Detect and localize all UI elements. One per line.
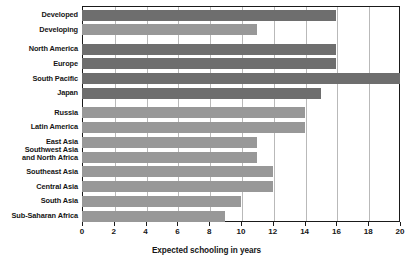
x-tick-label: 12 bbox=[268, 227, 277, 236]
x-axis-title: Expected schooling in years bbox=[0, 246, 413, 255]
bar bbox=[82, 166, 273, 177]
x-tick bbox=[336, 222, 337, 226]
x-tick bbox=[368, 222, 369, 226]
x-tick bbox=[82, 222, 83, 226]
bar-row bbox=[82, 122, 400, 133]
category-label: Russia bbox=[0, 109, 78, 117]
bar bbox=[82, 181, 273, 192]
category-axis-labels: DevelopedDevelopingNorth AmericaEuropeSo… bbox=[0, 6, 78, 222]
category-label: Sub-Saharan Africa bbox=[0, 212, 78, 220]
bar-row bbox=[82, 211, 400, 222]
x-tick bbox=[146, 222, 147, 226]
bar-chart: DevelopedDevelopingNorth AmericaEuropeSo… bbox=[0, 0, 413, 269]
bar bbox=[82, 88, 321, 99]
bar-row bbox=[82, 88, 400, 99]
x-tick-label: 2 bbox=[112, 227, 116, 236]
category-label: Developed bbox=[0, 11, 78, 19]
bar-row bbox=[82, 107, 400, 118]
x-tick bbox=[400, 222, 401, 226]
bar bbox=[82, 24, 257, 35]
bar bbox=[82, 152, 257, 163]
x-tick-label: 18 bbox=[364, 227, 373, 236]
x-tick bbox=[209, 222, 210, 226]
bar-row bbox=[82, 44, 400, 55]
x-tick-label: 16 bbox=[332, 227, 341, 236]
bar-row bbox=[82, 137, 400, 148]
x-tick bbox=[114, 222, 115, 226]
x-tick-label: 4 bbox=[143, 227, 147, 236]
x-tick-label: 6 bbox=[175, 227, 179, 236]
bar bbox=[82, 137, 257, 148]
bar-row bbox=[82, 24, 400, 35]
category-label: North America bbox=[0, 45, 78, 53]
x-tick-label: 0 bbox=[80, 227, 84, 236]
category-label: Latin America bbox=[0, 123, 78, 131]
bar bbox=[82, 107, 305, 118]
bar-row bbox=[82, 181, 400, 192]
x-tick bbox=[177, 222, 178, 226]
category-label: Southeast Asia bbox=[0, 168, 78, 176]
x-tick bbox=[241, 222, 242, 226]
bar-row bbox=[82, 166, 400, 177]
bar bbox=[82, 122, 305, 133]
category-label: South Pacific bbox=[0, 75, 78, 83]
x-tick-label: 20 bbox=[396, 227, 405, 236]
bar-row bbox=[82, 58, 400, 69]
category-label: Central Asia bbox=[0, 183, 78, 191]
bar bbox=[82, 10, 336, 21]
x-tick bbox=[305, 222, 306, 226]
bar bbox=[82, 44, 336, 55]
category-label: Japan bbox=[0, 89, 78, 97]
category-label: Europe bbox=[0, 60, 78, 68]
x-axis-tick-labels: 02468101214161820 bbox=[82, 227, 400, 239]
bar bbox=[82, 196, 241, 207]
category-label: Developing bbox=[0, 26, 78, 34]
x-tick-label: 8 bbox=[207, 227, 211, 236]
x-tick-label: 14 bbox=[300, 227, 309, 236]
bar-row bbox=[82, 152, 400, 163]
bar-row bbox=[82, 196, 400, 207]
bar-row bbox=[82, 10, 400, 21]
x-tick-label: 10 bbox=[237, 227, 246, 236]
bar bbox=[82, 58, 336, 69]
category-label: Southwest Asia and North Africa bbox=[0, 146, 78, 162]
x-tick bbox=[273, 222, 274, 226]
bar bbox=[82, 211, 225, 222]
category-label: South Asia bbox=[0, 197, 78, 205]
bars-container bbox=[82, 6, 400, 222]
bar-row bbox=[82, 73, 400, 84]
bar bbox=[82, 73, 400, 84]
